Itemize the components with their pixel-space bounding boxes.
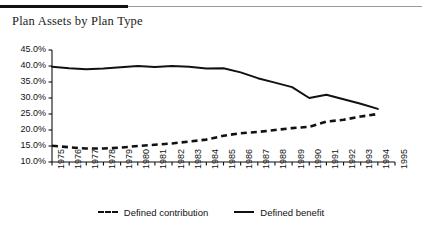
x-axis-tick-label: 1979 — [124, 149, 134, 169]
x-axis-tick-label: 1983 — [193, 149, 203, 169]
y-axis-tick-label: 25.0% — [2, 108, 46, 118]
x-axis-tick-label: 1976 — [73, 149, 83, 169]
x-axis-tick-label: 1981 — [158, 149, 168, 169]
x-axis-tick-label: 1975 — [56, 149, 66, 169]
x-axis-tick-label: 1986 — [244, 149, 254, 169]
x-axis-tick-label: 1992 — [347, 149, 357, 169]
x-axis-tick-label: 1995 — [399, 149, 409, 169]
y-axis-tick-label: 40.0% — [2, 60, 46, 70]
chart-legend: Defined contributionDefined benefit — [0, 204, 422, 220]
legend-dashed-swatch-icon — [98, 211, 118, 213]
x-axis-tick-label: 1978 — [107, 149, 117, 169]
y-axis-tick-label: 15.0% — [2, 140, 46, 150]
x-axis-tick-label: 1984 — [210, 149, 220, 169]
y-axis-tick-label: 20.0% — [2, 124, 46, 134]
x-axis-tick-label: 1980 — [141, 149, 151, 169]
y-axis-tick-label: 10.0% — [2, 156, 46, 166]
legend-item: Defined benefit — [234, 207, 324, 218]
x-axis-tick-label: 1989 — [296, 149, 306, 169]
series-line-defined-contribution — [52, 114, 378, 149]
legend-label: Defined benefit — [260, 207, 324, 218]
x-axis-tick-label: 1991 — [330, 149, 340, 169]
x-axis-tick-label: 1990 — [313, 149, 323, 169]
line-chart-plot — [0, 0, 422, 226]
x-axis-tick-label: 1977 — [90, 149, 100, 169]
x-axis-tick-label: 1985 — [227, 149, 237, 169]
legend-solid-swatch-icon — [234, 211, 254, 213]
x-axis-tick-label: 1982 — [176, 149, 186, 169]
series-line-defined-benefit — [52, 66, 378, 109]
legend-item: Defined contribution — [98, 207, 209, 218]
x-axis-tick-label: 1987 — [261, 149, 271, 169]
x-axis-tick-label: 1993 — [364, 149, 374, 169]
x-axis-tick-label: 1994 — [381, 149, 391, 169]
y-axis-tick-label: 35.0% — [2, 76, 46, 86]
chart-series — [52, 66, 378, 149]
y-axis-tick-label: 30.0% — [2, 92, 46, 102]
x-axis-tick-label: 1988 — [278, 149, 288, 169]
legend-label: Defined contribution — [124, 207, 209, 218]
y-axis-tick-label: 45.0% — [2, 44, 46, 54]
